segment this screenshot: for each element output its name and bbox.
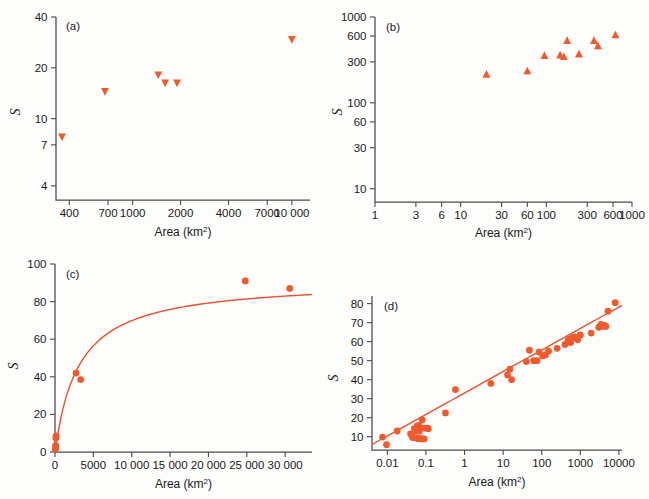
y-tick-label: 600 [347,30,366,42]
x-tick-label: 100 [532,457,551,469]
y-axis-c: 020406080100 [27,258,55,458]
x-tick-label: 10 000 [114,459,149,471]
chart-b: 1030601003006001000136103060100300600100… [320,0,649,245]
y-tick-label: 20 [35,62,48,74]
x-tick-label: 10000 [603,457,635,469]
y-tick-label: 4 [41,180,48,192]
x-tick-label: 15 000 [152,459,187,471]
panel-label: (c) [66,268,80,280]
x-axis-b: 1361030601003006001000 [372,202,645,221]
y-tick-label: 80 [351,298,364,310]
x-tick-label: 0.1 [418,457,434,469]
y-tick-label: 7 [41,139,47,151]
x-tick-label: 10 [497,457,510,469]
x-tick-label: 700 [98,207,117,219]
y-tick-label: 80 [34,296,47,308]
panel-a: 47102040400700100020004000700010 000Area… [0,0,325,245]
x-tick-label: 4000 [216,207,242,219]
x-tick-label: 30 000 [268,459,303,471]
axes-d [372,296,622,450]
y-tick-label: 40 [351,374,364,386]
x-axis-title: Area (km2) [468,475,525,489]
panel-label: (b) [386,21,400,33]
species-area-figure: 47102040400700100020004000700010 000Area… [0,0,649,499]
x-tick-label: 400 [60,207,79,219]
y-tick-label: 100 [27,258,46,270]
x-axis-title: Area (km2) [155,477,212,491]
x-tick-label: 100 [537,209,556,221]
x-tick-label: 10 000 [274,207,309,219]
x-tick-label: 30 [495,209,508,221]
y-tick-label: 100 [347,97,366,109]
fit-curve [55,295,312,452]
y-tick-label: 10 [35,113,48,125]
y-tick-label: 20 [34,408,47,420]
x-tick-label: 6 [438,209,444,221]
y-tick-label: 300 [347,56,366,68]
x-tick-label: 5000 [81,459,107,471]
y-axis-a: 47102040 [35,11,56,192]
x-tick-label: 3 [413,209,419,221]
chart-d: 10203040506070800.010.1110100100010000Ar… [322,278,649,499]
x-axis-d: 0.010.1110100100010000 [376,450,635,469]
x-axis-c: 0500010 00015 00020 00025 00030 000 [52,452,303,471]
fit-curve [372,305,622,444]
panel-label: (d) [384,300,398,312]
x-tick-label: 0.01 [376,457,398,469]
axes-a [56,17,310,200]
x-tick-label: 1 [372,209,378,221]
y-tick-label: 60 [34,333,47,345]
x-axis-title: Area (km2) [475,226,532,240]
x-tick-label: 1000 [120,207,146,219]
x-tick-label: 2000 [168,207,194,219]
data-points [52,278,293,453]
y-tick-label: 70 [351,317,364,329]
x-tick-label: 20 000 [191,459,226,471]
axes-b [375,17,632,202]
x-tick-label: 60 [521,209,534,221]
y-axis-title: S [6,363,21,370]
y-tick-label: 20 [351,412,364,424]
x-axis-a: 400700100020004000700010 000 [60,200,310,219]
x-tick-label: 1 [461,457,467,469]
y-tick-label: 40 [34,371,47,383]
y-tick-label: 10 [351,431,364,443]
panel-b: 1030601003006001000136103060100300600100… [320,0,649,245]
panel-c: 0204060801000500010 00015 00020 00025 00… [0,248,330,499]
y-tick-label: 60 [354,116,367,128]
x-tick-label: 1000 [619,209,645,221]
x-tick-label: 0 [52,459,58,471]
y-tick-label: 50 [351,355,364,367]
x-tick-label: 25 000 [229,459,264,471]
data-points [58,36,296,141]
y-axis-b: 1030601003006001000 [341,11,375,195]
y-tick-label: 60 [351,336,364,348]
y-tick-label: 30 [351,393,364,405]
y-tick-label: 40 [35,11,48,23]
y-tick-label: 0 [40,446,46,458]
x-tick-label: 300 [578,209,597,221]
data-points [482,31,619,78]
axes-c [55,264,312,452]
y-axis-title: S [330,109,345,116]
x-tick-label: 10 [454,209,467,221]
x-axis-title: Area (km2) [154,225,211,239]
y-axis-title: S [326,375,341,382]
y-tick-label: 30 [354,142,367,154]
panel-label: (a) [66,20,80,32]
chart-a: 47102040400700100020004000700010 000Area… [0,0,325,245]
y-axis-d: 1020304050607080 [351,298,372,443]
y-axis-title: S [8,109,23,116]
panel-d: 10203040506070800.010.1110100100010000Ar… [322,278,649,499]
chart-c: 0204060801000500010 00015 00020 00025 00… [0,248,330,499]
y-tick-label: 10 [354,183,367,195]
x-tick-label: 1000 [568,457,594,469]
y-tick-label: 1000 [341,11,367,23]
